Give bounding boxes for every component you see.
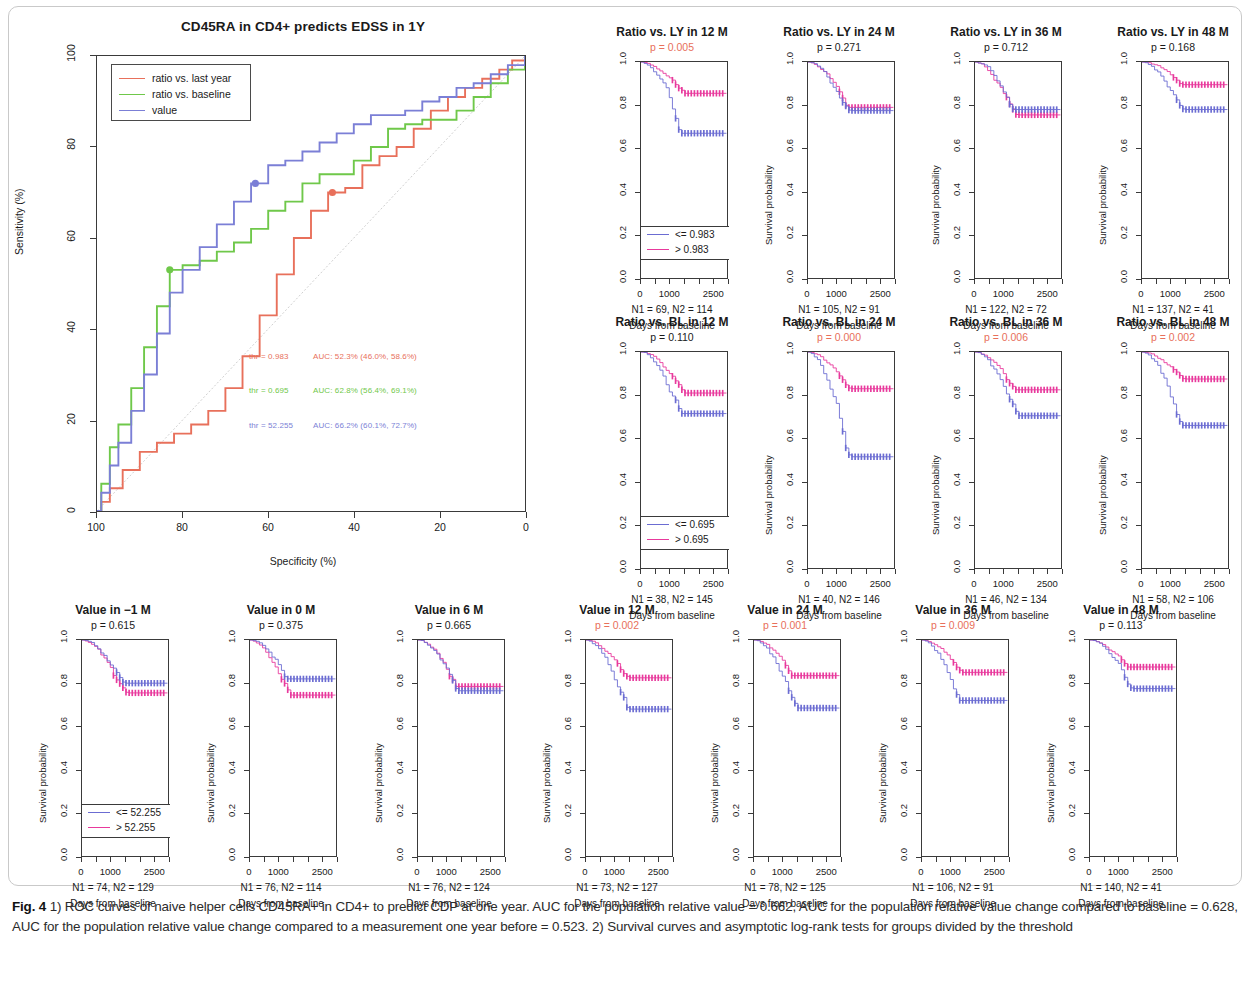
roc-x-tick-label: 40: [334, 521, 374, 533]
survival-x-tickmark: [1047, 279, 1048, 284]
survival-x-tickmark: [110, 857, 111, 862]
survival-panel: Ratio vs. LY in 24 Mp = 0.271Survival pr…: [759, 25, 919, 295]
survival-y-tick-label: 0.0: [226, 843, 237, 867]
survival-panel-title: Value in 6 M: [369, 603, 529, 617]
survival-x-tickmark: [880, 569, 881, 574]
survival-n-label: N1 = 105, N2 = 91: [759, 304, 919, 315]
survival-x-tick-label: 1000: [88, 866, 132, 877]
survival-plot-area: [1141, 351, 1229, 569]
survival-y-tick-label: 1.0: [951, 337, 962, 361]
survival-x-tick-label: 2500: [1192, 288, 1236, 299]
survival-panel-title: Value in 48 M: [1041, 603, 1201, 617]
roc-x-tickmark: [354, 512, 355, 518]
caption-text: 1) ROC curves of naive helper cells CD45…: [12, 899, 1238, 934]
survival-x-tickmark: [600, 857, 601, 862]
survival-curves: [922, 640, 1008, 856]
survival-y-tick-label: 0.0: [1066, 843, 1077, 867]
survival-x-tickmark: [1170, 569, 1171, 574]
roc-x-axis-label: Specificity (%): [23, 555, 583, 567]
roc-panel: CD45RA in CD4+ predicts EDSS in 1Y Sensi…: [23, 15, 583, 595]
roc-x-tickmark: [268, 512, 269, 518]
survival-y-tick-label: 0.8: [951, 90, 962, 114]
survival-legend-item-0: <= 0.695: [641, 517, 729, 532]
survival-x-tickmark: [822, 569, 823, 574]
survival-x-tickmark: [154, 857, 155, 862]
survival-n-label: N1 = 69, N2 = 114: [592, 304, 752, 315]
survival-y-tick-label: 0.0: [1118, 555, 1129, 579]
survival-panel: Value in 24 Mp = 0.001Survival probabili…: [705, 603, 865, 873]
survival-y-tick-label: 0.8: [58, 668, 69, 692]
survival-x-tickmark: [1003, 569, 1004, 574]
survival-x-tickmark: [655, 279, 656, 284]
survival-y-tick-label: 0.2: [951, 221, 962, 245]
survival-panel: Ratio vs. BL in 36 Mp = 0.006Survival pr…: [926, 315, 1086, 585]
survival-x-tickmark: [974, 279, 975, 284]
survival-y-tick-label: 0.4: [617, 467, 628, 491]
survival-x-tickmark: [895, 279, 896, 284]
survival-panel: Ratio vs. LY in 36 Mp = 0.712Survival pr…: [926, 25, 1086, 295]
survival-x-tickmark: [1133, 857, 1134, 862]
survival-x-tickmark: [1200, 279, 1201, 284]
survival-y-tick-label: 0.0: [394, 843, 405, 867]
survival-panel-title: Value in 36 M: [873, 603, 1033, 617]
survival-x-tickmark: [768, 857, 769, 862]
survival-x-tickmark: [585, 857, 586, 862]
survival-n-label: N1 = 137, N2 = 41: [1093, 304, 1250, 315]
survival-x-tickmark: [505, 857, 506, 862]
survival-y-tick-label: 0.2: [898, 799, 909, 823]
survival-y-tick-label: 0.2: [951, 511, 962, 535]
survival-plot-area: <= 52.255> 52.255: [81, 639, 169, 857]
roc-x-tickmark: [182, 512, 183, 518]
survival-x-tickmark: [1141, 569, 1142, 574]
roc-auc-label: AUC: 66.2% (60.1%, 72.7%): [313, 421, 417, 430]
survival-panel: Ratio vs. LY in 12 Mp = 0.0050.00.20.40.…: [592, 25, 752, 295]
survival-x-tickmark: [644, 857, 645, 862]
roc-legend-item-1: ratio vs. baseline: [116, 86, 246, 102]
roc-legend: ratio vs. last yearratio vs. baselineval…: [111, 64, 251, 121]
survival-x-tickmark: [669, 569, 670, 574]
survival-plot-area: [1141, 61, 1229, 279]
survival-curves: [250, 640, 336, 856]
survival-x-tick-label: 1000: [647, 578, 691, 589]
survival-x-tickmark: [836, 569, 837, 574]
survival-panel-title: Value in 0 M: [201, 603, 361, 617]
survival-legend: <= 0.983> 0.983: [641, 226, 729, 260]
survival-y-tick-label: 1.0: [730, 625, 741, 649]
survival-x-tickmark: [614, 857, 615, 862]
survival-legend-label: > 0.983: [675, 244, 709, 255]
survival-x-tickmark: [673, 857, 674, 862]
survival-y-tick-label: 0.4: [617, 177, 628, 201]
survival-x-tickmark: [640, 569, 641, 574]
roc-threshold-label: thr = 0.695: [249, 386, 313, 395]
survival-y-axis-label: Survival probability: [877, 743, 888, 823]
survival-curves: [808, 352, 894, 568]
survival-plot-area: [417, 639, 505, 857]
survival-x-tickmark: [921, 857, 922, 862]
survival-plot-area: [585, 639, 673, 857]
survival-x-tick-label: 2500: [858, 578, 902, 589]
survival-x-tickmark: [866, 279, 867, 284]
roc-threshold-label: thr = 0.983: [249, 352, 313, 361]
survival-panel: Value in −1 Mp = 0.615Survival probabili…: [33, 603, 193, 873]
survival-plot-area: [807, 351, 895, 569]
roc-legend-label: value: [152, 104, 177, 116]
survival-y-tick-label: 0.0: [784, 555, 795, 579]
survival-x-tick-label: 1000: [981, 288, 1025, 299]
survival-plot-area: [249, 639, 337, 857]
roc-y-tick-label: 40: [65, 314, 77, 340]
survival-panel: Value in 12 Mp = 0.002Survival probabili…: [537, 603, 697, 873]
survival-x-tick-label: 1000: [814, 288, 858, 299]
survival-x-tickmark: [1118, 857, 1119, 862]
survival-x-tick-label: 2500: [468, 866, 512, 877]
survival-y-tick-label: 0.4: [951, 467, 962, 491]
survival-panel-title: Value in −1 M: [33, 603, 193, 617]
legend-line-icon: [119, 110, 145, 111]
survival-x-tickmark: [836, 279, 837, 284]
survival-y-tick-label: 0.2: [1118, 511, 1129, 535]
survival-y-tick-label: 0.6: [617, 134, 628, 158]
roc-x-tick-label: 0: [506, 521, 546, 533]
roc-legend-item-0: ratio vs. last year: [116, 70, 246, 86]
survival-y-tick-label: 0.6: [394, 712, 405, 736]
survival-x-tickmark: [249, 857, 250, 862]
survival-y-tick-label: 0.8: [617, 380, 628, 404]
